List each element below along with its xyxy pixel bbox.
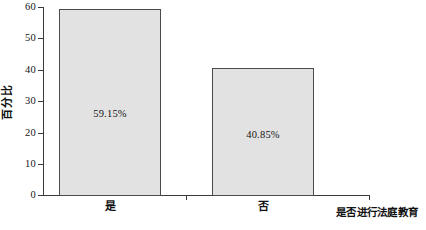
- x-axis-title: 是否进行法庭教育: [336, 206, 418, 219]
- y-axis-tick-label: 10: [0, 159, 36, 169]
- bar-value-label-no: 40.85%: [208, 129, 318, 141]
- x-axis-tick-label-yes: 是: [80, 200, 140, 214]
- bar-chart: 60 50 40 30 20 10 0 百分比 59.15% 40.85% 是 …: [0, 0, 426, 230]
- bar-yes: [59, 9, 161, 196]
- y-axis-tick-label: 50: [0, 33, 36, 43]
- y-axis-tick-label: 40: [0, 65, 36, 75]
- x-axis-tick-label-no: 否: [233, 200, 293, 214]
- y-axis-tick: [38, 101, 43, 102]
- y-axis-tick: [38, 7, 43, 8]
- y-axis-tick-label: 20: [0, 128, 36, 138]
- y-axis-tick-label: 60: [0, 2, 36, 12]
- y-axis-line: [43, 7, 44, 196]
- y-axis-tick: [38, 164, 43, 165]
- x-axis-tick: [186, 196, 187, 200]
- y-axis-tick-label: 0: [0, 190, 36, 200]
- y-axis-tick: [38, 70, 43, 71]
- y-axis-title: 百分比: [2, 77, 14, 127]
- y-axis-tick: [38, 133, 43, 134]
- y-axis-tick: [38, 38, 43, 39]
- bar-value-label-yes: 59.15%: [55, 108, 165, 120]
- x-axis-tick: [369, 196, 370, 200]
